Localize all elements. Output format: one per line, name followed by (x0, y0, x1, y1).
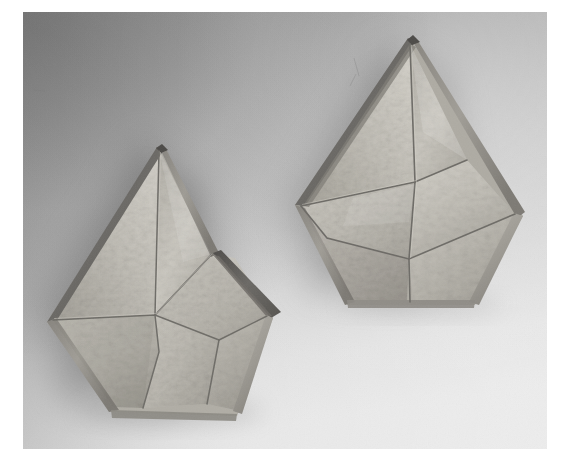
photograph-plate (23, 12, 547, 449)
photograph-image (23, 12, 547, 449)
vignette-overlay (23, 12, 547, 449)
photo-white-border: Black-and-white photograph of a pair of … (0, 0, 570, 462)
